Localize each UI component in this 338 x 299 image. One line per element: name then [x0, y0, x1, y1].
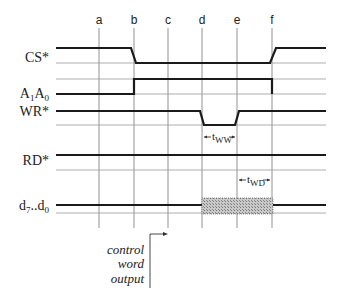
- tww-label: tWW: [212, 130, 233, 145]
- column-label-f: f: [270, 13, 274, 27]
- signal-wr: WR* tWW: [19, 104, 326, 145]
- signal-label-wr: WR*: [19, 104, 49, 119]
- waveform: [56, 48, 326, 63]
- timing-diagram-canvas: a b c d e f CS* A1A0 WR*: [0, 0, 338, 299]
- annotation-line-3: output: [111, 271, 145, 286]
- signal-label-data-bus: d7..d0: [19, 198, 50, 215]
- valid-data-region: [202, 198, 273, 214]
- tww-marker: tWW: [204, 130, 235, 145]
- twd-label: tWD: [247, 173, 266, 188]
- twd-marker: tWD: [239, 173, 270, 188]
- column-labels: a b c d e f: [96, 13, 275, 27]
- annotation-line-1: control: [107, 242, 144, 257]
- waveform: [56, 79, 272, 94]
- signal-label-cs: CS*: [25, 50, 49, 65]
- column-label-e: e: [234, 13, 241, 27]
- column-label-d: d: [199, 13, 206, 27]
- waveform: [56, 111, 326, 125]
- signal-label-a1a0: A1A0: [20, 86, 50, 103]
- column-label-b: b: [131, 13, 138, 27]
- signal-a1a0: A1A0: [20, 79, 326, 103]
- signal-data-bus: d7..d0: [19, 198, 326, 215]
- column-label-a: a: [96, 13, 103, 27]
- arrow-right-icon: [163, 232, 168, 236]
- signal-rd: RD* tWD: [23, 153, 326, 188]
- signal-label-rd: RD*: [23, 153, 49, 168]
- column-label-c: c: [165, 13, 171, 27]
- annotation-line-2: word: [118, 256, 145, 271]
- signal-cs: CS*: [25, 48, 326, 65]
- annotation-leader: [150, 234, 164, 288]
- timing-diagram: a b c d e f CS* A1A0 WR*: [0, 0, 338, 299]
- control-word-annotation: control word output: [107, 232, 168, 288]
